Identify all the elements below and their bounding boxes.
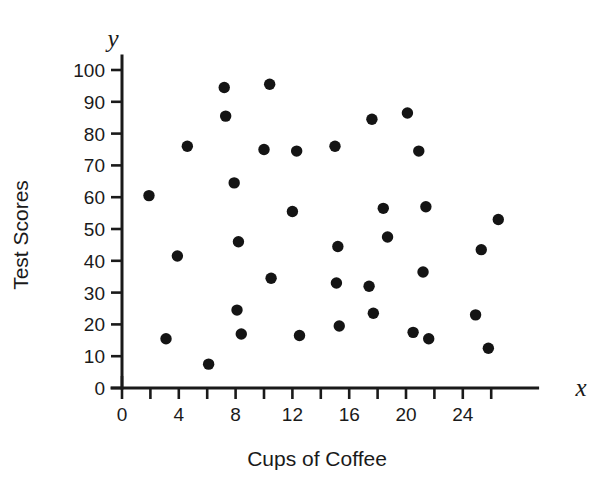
data-point: [420, 201, 431, 212]
data-point: [233, 236, 244, 247]
y-tick-label: 10: [84, 346, 105, 367]
y-axis-variable-label: y: [104, 25, 119, 52]
data-point: [366, 114, 377, 125]
x-tick-label: 0: [117, 404, 128, 425]
data-point: [231, 304, 242, 315]
y-tick-label: 90: [84, 92, 105, 113]
data-point: [483, 343, 494, 354]
y-tick-label: 70: [84, 155, 105, 176]
data-point: [334, 320, 345, 331]
data-point: [332, 241, 343, 252]
y-tick-label: 20: [84, 314, 105, 335]
data-point: [258, 144, 269, 155]
x-axis-title: Cups of Coffee: [247, 447, 387, 470]
data-point: [291, 145, 302, 156]
y-tick-label: 40: [84, 251, 105, 272]
data-point: [203, 358, 214, 369]
scatter-plot-canvas: 0102030405060708090100 04812162024 y x C…: [0, 0, 609, 490]
data-point: [476, 244, 487, 255]
x-tick-label: 24: [452, 404, 474, 425]
data-point: [264, 79, 275, 90]
data-point: [493, 214, 504, 225]
y-tick-label: 50: [84, 219, 105, 240]
y-tick-label: 0: [94, 378, 105, 399]
data-point: [160, 333, 171, 344]
data-point: [236, 328, 247, 339]
data-point: [423, 333, 434, 344]
y-tick-label: 80: [84, 124, 105, 145]
data-point: [470, 309, 481, 320]
x-axis-variable-label: x: [574, 374, 586, 401]
data-point: [378, 203, 389, 214]
data-point: [182, 141, 193, 152]
scatter-plot-figure: 0102030405060708090100 04812162024 y x C…: [0, 0, 609, 490]
x-tick-label: 16: [339, 404, 360, 425]
data-point: [368, 308, 379, 319]
data-point: [363, 281, 374, 292]
data-point: [329, 141, 340, 152]
data-point: [407, 327, 418, 338]
x-tick-label: 20: [395, 404, 416, 425]
data-point: [294, 330, 305, 341]
data-point: [413, 145, 424, 156]
data-point: [382, 231, 393, 242]
data-point: [417, 266, 428, 277]
data-point: [220, 110, 231, 121]
data-point: [172, 250, 183, 261]
x-tick-label: 12: [282, 404, 303, 425]
y-tick-label: 100: [73, 60, 105, 81]
data-point: [287, 206, 298, 217]
y-tick-label: 30: [84, 283, 105, 304]
x-tick-label: 8: [230, 404, 241, 425]
data-point: [331, 277, 342, 288]
data-point: [143, 190, 154, 201]
data-point: [402, 107, 413, 118]
x-tick-label: 4: [174, 404, 185, 425]
data-point: [228, 177, 239, 188]
data-point: [265, 273, 276, 284]
y-tick-label: 60: [84, 187, 105, 208]
data-point: [219, 82, 230, 93]
y-axis-title: Test Scores: [9, 180, 32, 290]
